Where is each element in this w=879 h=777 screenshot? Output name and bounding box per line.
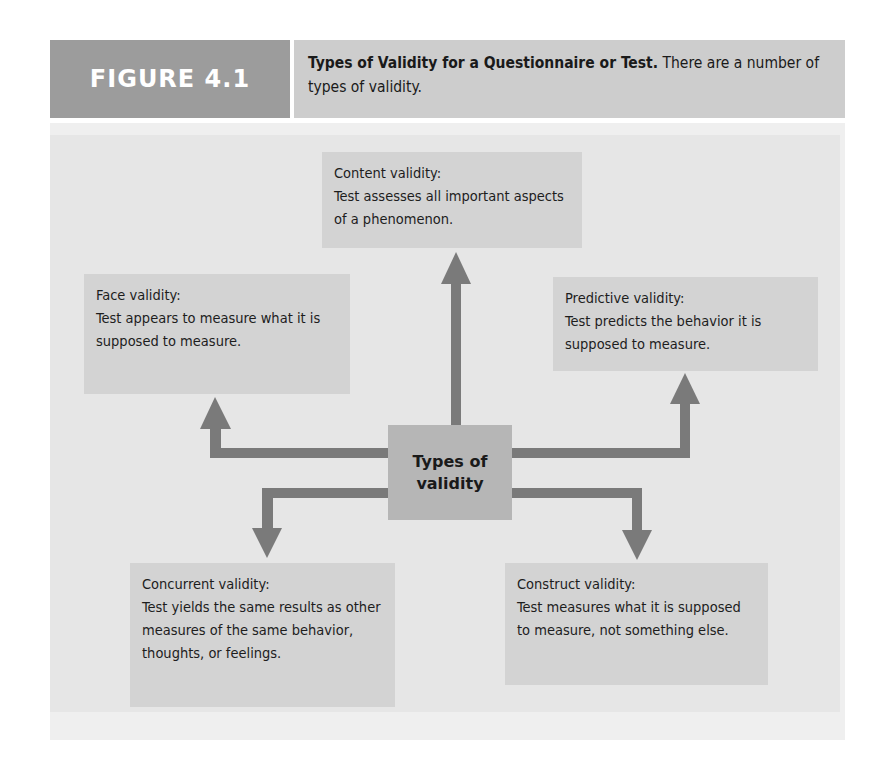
node-title: Predictive validity:: [565, 287, 806, 310]
node-description: Test yields the same results as other me…: [142, 596, 383, 665]
node-description: Test appears to measure what it is suppo…: [96, 307, 338, 353]
node-description: Test measures what it is supposed to mea…: [517, 596, 756, 642]
arrow-up-face-icon: [200, 397, 388, 458]
node-predictive-validity: Predictive validity: Test predicts the b…: [553, 277, 818, 371]
arrow-down-concurrent-icon: [252, 488, 388, 558]
node-description: Test predicts the behavior it is suppose…: [565, 310, 806, 356]
node-title: Content validity:: [334, 162, 570, 185]
center-line-1: Types of: [413, 451, 488, 473]
node-title: Concurrent validity:: [142, 573, 383, 596]
arrow-down-construct-icon: [512, 488, 652, 560]
node-face-validity: Face validity: Test appears to measure w…: [84, 274, 350, 394]
arrow-up-predictive-icon: [512, 373, 700, 458]
center-line-2: validity: [413, 473, 488, 495]
node-content-validity: Content validity: Test assesses all impo…: [322, 152, 582, 248]
node-title: Construct validity:: [517, 573, 756, 596]
center-node: Types of validity: [388, 425, 512, 520]
node-description: Test assesses all important aspects of a…: [334, 185, 570, 231]
node-concurrent-validity: Concurrent validity: Test yields the sam…: [130, 563, 395, 707]
node-construct-validity: Construct validity: Test measures what i…: [505, 563, 768, 685]
arrow-up-content-icon: [441, 252, 471, 425]
node-title: Face validity:: [96, 284, 338, 307]
